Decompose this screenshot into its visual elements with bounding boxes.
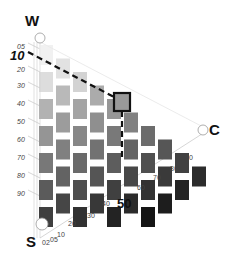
ternary-diagram: WSC0510203040506070809002051020304050607… [0,0,232,255]
gray-cell [90,140,104,160]
left-tick: 70 [17,154,25,161]
left-tick-highlight: 10 [10,48,25,63]
bottom-tick: 40 [102,200,110,207]
highlight-cell [114,93,130,111]
vertex-s-letter: S [26,233,36,250]
gray-cell [39,180,53,200]
gray-cell [39,99,53,119]
diagram-canvas: WSC0510203040506070809002051020304050607… [0,0,232,255]
gray-cell [56,113,70,133]
gray-cell [192,167,206,187]
gray-cell [73,153,87,173]
gray-cell [90,113,104,133]
gray-cell [56,86,70,106]
gray-cell [124,140,138,160]
bottom-tick: 30 [87,212,95,219]
gray-cell [39,72,53,92]
gray-cell [141,126,155,146]
gray-cell [124,113,138,133]
bottom-tick: 70 [153,174,161,181]
gray-cell [158,140,172,160]
bottom-tick: 20 [68,220,76,227]
gray-cell [90,167,104,187]
left-tick: 30 [17,82,25,89]
vertex-c-letter: C [209,121,220,138]
gray-cell [39,126,53,146]
bottom-tick: 90 [185,154,193,161]
left-tick: 50 [17,118,25,125]
bottom-tick: 02 [42,239,50,246]
gray-cell [107,126,121,146]
vertex-c-circle [198,125,208,135]
gray-cell [141,153,155,173]
vertex-s-circle [36,218,48,230]
gray-cell [56,167,70,187]
gray-cell [39,153,53,173]
vertex-w-letter: W [25,12,40,29]
left-tick: 90 [17,190,25,197]
gray-cell [175,180,189,200]
gray-cell [56,140,70,160]
gray-cell [124,167,138,187]
vertex-w-circle [35,33,45,43]
bottom-tick-highlight: 50 [117,196,131,211]
gray-cell [90,86,104,106]
gray-cell [73,126,87,146]
bottom-tick: 10 [57,231,65,238]
gray-cell [73,99,87,119]
bottom-tick: 60 [137,184,145,191]
left-tick: 40 [17,100,25,107]
gray-cell [73,180,87,200]
bottom-tick: 80 [170,165,178,172]
left-tick: 60 [17,136,25,143]
left-tick: 80 [17,172,25,179]
gray-cell [107,153,121,173]
left-tick: 20 [16,66,25,73]
gray-cell [56,194,70,214]
gray-cell [158,194,172,214]
gray-cell [141,207,155,227]
